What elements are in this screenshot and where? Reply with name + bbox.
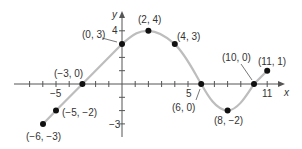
point-4-3 (172, 41, 178, 47)
x-axis-label: x (283, 87, 290, 98)
point-8-neg2 (225, 108, 231, 114)
y-axis-label: y (111, 9, 118, 20)
point-0-3 (119, 41, 125, 47)
y-axis-arrow-icon (119, 11, 125, 18)
point-label-11-1: (11, 1) (258, 56, 286, 67)
x-tick-label-5: 5 (186, 88, 192, 99)
point-label-8-neg2: (8, −2) (214, 115, 243, 126)
point-label-0-3: (0, 3) (82, 29, 105, 40)
point-11-1 (264, 68, 270, 74)
point-2-4 (145, 28, 151, 34)
point-label-4-3: (4, 3) (177, 31, 200, 42)
y-tick-label-neg3: −3 (109, 119, 121, 130)
graph: x y −5 5 11 4 −3 (−6, −3) (−5, −2) (−3, … (0, 0, 302, 149)
point-neg5-neg2 (53, 108, 59, 114)
point-label-2-4: (2, 4) (138, 14, 161, 25)
point-10-0 (251, 81, 257, 87)
point-neg6-neg3 (40, 121, 46, 127)
x-tick-label-neg5: −5 (50, 88, 62, 99)
x-tick-label-11: 11 (262, 88, 273, 99)
y-tick-label-4: 4 (112, 25, 118, 36)
point-label-10-0: (10, 0) (222, 52, 251, 63)
point-label-neg5-neg2: (−5, −2) (62, 107, 97, 118)
point-6-0 (198, 81, 204, 87)
point-label-6-0: (6, 0) (172, 102, 195, 113)
point-label-neg3-0: (−3, 0) (54, 68, 83, 79)
point-label-neg6-neg3: (−6, −3) (26, 131, 61, 142)
point-neg3-0 (79, 81, 85, 87)
